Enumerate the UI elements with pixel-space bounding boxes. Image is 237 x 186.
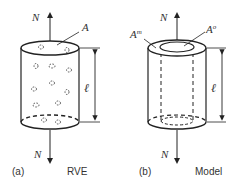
panel-tag-b: (b) bbox=[139, 166, 151, 177]
pores bbox=[32, 45, 72, 124]
panel-caption-model: Model bbox=[195, 166, 222, 177]
force-label-bottom-a: N bbox=[33, 148, 42, 160]
area-outer-label: Ao bbox=[205, 23, 217, 35]
panel-a-rve: N A bbox=[12, 11, 100, 177]
length-label-a: ℓ bbox=[84, 81, 89, 95]
panel-caption-rve: RVE bbox=[67, 166, 88, 177]
panel-tag-a: (a) bbox=[12, 166, 24, 177]
length-label-b: ℓ bbox=[211, 81, 216, 95]
area-label-a: A bbox=[81, 21, 89, 33]
inner-core bbox=[160, 42, 194, 52]
cylinder-model bbox=[148, 40, 206, 129]
panel-b-model: N Am Ao ℓ N (b) Model bbox=[129, 11, 226, 177]
force-label-top-a: N bbox=[31, 11, 40, 23]
length-dimension-b bbox=[207, 48, 226, 122]
force-label-top-b: N bbox=[159, 11, 168, 23]
force-label-bottom-b: N bbox=[160, 148, 169, 160]
length-dimension-a bbox=[80, 48, 100, 122]
diagram-canvas: N A bbox=[0, 0, 237, 186]
area-matrix-label: Am bbox=[129, 28, 142, 40]
cylinder-rve bbox=[21, 41, 79, 129]
